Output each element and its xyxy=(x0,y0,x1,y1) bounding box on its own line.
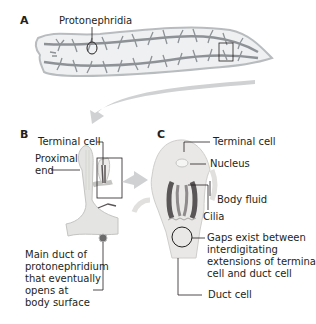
straight-arrow xyxy=(122,171,148,189)
panel-b-letter: B xyxy=(20,128,28,141)
panel-a-letter: A xyxy=(20,14,29,27)
label-main-duct-4: opens at xyxy=(25,285,68,297)
curved-arrow xyxy=(90,80,255,124)
label-protonephridia: Protonephridia xyxy=(59,15,132,27)
label-nucleus: Nucleus xyxy=(210,158,250,170)
panel-c-letter: C xyxy=(157,128,165,141)
label-gaps-3: extensions of terminal xyxy=(207,256,316,268)
label-main-duct-1: Main duct of xyxy=(25,249,87,261)
label-main-duct-3: that eventually xyxy=(25,273,101,285)
label-c-terminal-cell: Terminal cell xyxy=(213,136,276,148)
label-body-fluid: Body fluid xyxy=(217,194,267,206)
label-gaps-2: interdigitating xyxy=(207,244,278,256)
label-cilia: Cilia xyxy=(203,211,224,223)
label-gaps-1: Gaps exist between xyxy=(207,232,306,244)
label-duct-cell: Duct cell xyxy=(208,289,252,301)
label-gaps-4: cell and duct cell xyxy=(207,268,292,280)
label-main-duct-2: protonephridium xyxy=(25,261,109,273)
label-b-terminal-cell: Terminal cell xyxy=(38,136,101,148)
label-proximal: Proximal xyxy=(35,153,78,165)
flatworm-body-illustration xyxy=(36,27,272,76)
label-main-duct-5: body surface xyxy=(25,297,90,309)
label-end: end xyxy=(35,165,54,177)
